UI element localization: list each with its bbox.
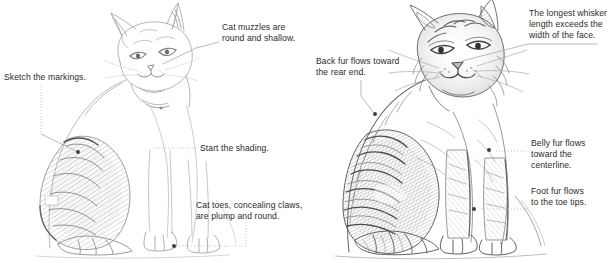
annotation-start-shading: Start the shading. [200, 143, 269, 154]
annotation-belly-fur: Belly fur flows toward the centerline. [531, 138, 585, 172]
annotation-cat-toes: Cat toes, concealing claws, are plump an… [196, 200, 302, 222]
annotation-back-fur: Back fur flows toward the rear end. [316, 56, 399, 78]
annotation-sketch-markings: Sketch the markings. [4, 72, 86, 83]
panel-divider [307, 0, 308, 263]
figure-canvas: Cat muzzles are round and shallow. Sketc… [0, 0, 613, 263]
annotation-cat-muzzles: Cat muzzles are round and shallow. [222, 22, 295, 44]
annotation-longest-whisker: The longest whisker length exceeds the w… [529, 8, 607, 42]
annotation-foot-fur: Foot fur flows to the toe tips. [531, 186, 586, 208]
